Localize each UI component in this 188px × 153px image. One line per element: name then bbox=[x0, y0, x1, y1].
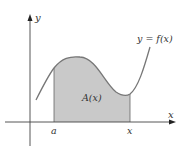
y-axis-label: y bbox=[34, 12, 41, 23]
y-axis-arrow-icon bbox=[28, 14, 33, 21]
curve-label: y = f(x) bbox=[136, 33, 173, 44]
lower-bound-label: a bbox=[51, 125, 57, 136]
shaded-area-region bbox=[54, 57, 130, 122]
area-function-diagram: y x y = f(x) A(x) a x bbox=[0, 0, 188, 153]
x-axis-arrow-icon bbox=[169, 120, 176, 125]
x-axis-label: x bbox=[168, 109, 174, 120]
area-label: A(x) bbox=[81, 92, 102, 103]
upper-bound-label: x bbox=[127, 125, 133, 136]
